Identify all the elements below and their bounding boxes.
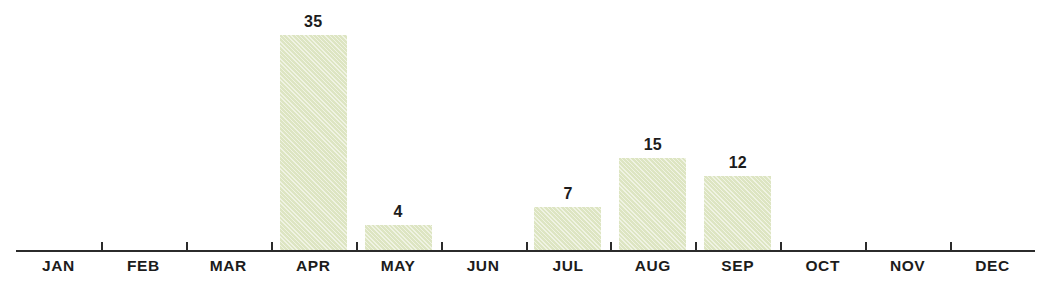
bar-value-label-aug: 15 bbox=[610, 136, 695, 154]
bar-aug bbox=[619, 158, 686, 250]
x-axis-tick bbox=[526, 242, 528, 251]
x-axis-label-mar: MAR bbox=[186, 256, 271, 276]
x-axis-label-oct: OCT bbox=[780, 256, 865, 276]
x-axis-tick bbox=[610, 242, 612, 251]
x-axis-label-aug: AUG bbox=[610, 256, 695, 276]
x-axis-tick bbox=[271, 242, 273, 251]
x-axis-tick bbox=[950, 242, 952, 251]
x-axis-label-sep: SEP bbox=[695, 256, 780, 276]
bar-sep bbox=[704, 176, 771, 250]
x-axis-tick bbox=[865, 242, 867, 251]
bar-jul bbox=[534, 207, 601, 250]
x-axis-tick bbox=[356, 242, 358, 251]
bar-value-label-jul: 7 bbox=[526, 185, 611, 203]
x-axis-label-dec: DEC bbox=[950, 256, 1035, 276]
x-axis-label-jul: JUL bbox=[526, 256, 611, 276]
x-axis-label-may: MAY bbox=[356, 256, 441, 276]
bar-apr bbox=[280, 35, 347, 250]
x-axis-tick bbox=[695, 242, 697, 251]
x-axis-tick bbox=[186, 242, 188, 251]
bar-value-label-apr: 35 bbox=[271, 13, 356, 31]
x-axis-label-apr: APR bbox=[271, 256, 356, 276]
x-axis-label-jan: JAN bbox=[16, 256, 101, 276]
x-axis-label-jun: JUN bbox=[441, 256, 526, 276]
bar-may bbox=[365, 225, 432, 250]
x-axis-tick bbox=[780, 242, 782, 251]
x-axis-tick bbox=[441, 242, 443, 251]
bar-value-label-may: 4 bbox=[356, 203, 441, 221]
x-axis-tick bbox=[101, 242, 103, 251]
bar-value-label-sep: 12 bbox=[695, 154, 780, 172]
x-axis-label-feb: FEB bbox=[101, 256, 186, 276]
x-axis-label-nov: NOV bbox=[865, 256, 950, 276]
bar-chart: 35471512 JANFEBMARAPRMAYJUNJULAUGSEPOCTN… bbox=[0, 0, 1042, 290]
plot-area: 35471512 JANFEBMARAPRMAYJUNJULAUGSEPOCTN… bbox=[0, 0, 1042, 290]
